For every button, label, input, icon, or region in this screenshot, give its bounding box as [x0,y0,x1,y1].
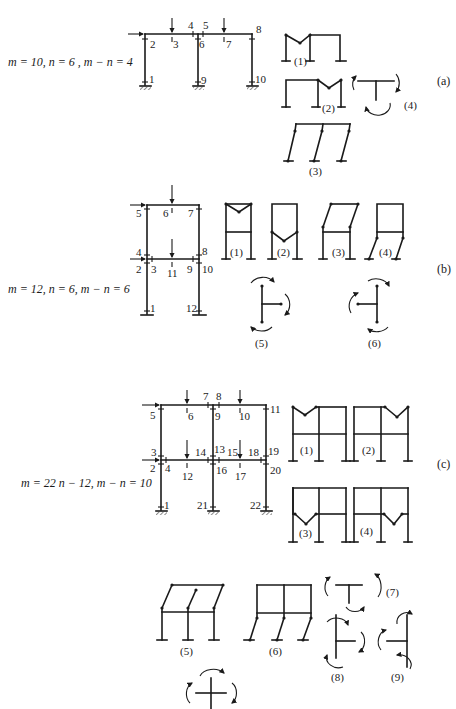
svg-text:1: 1 [164,499,170,511]
svg-text:7: 7 [188,207,194,219]
svg-text:3: 3 [173,38,179,50]
svg-text:6: 6 [199,38,205,50]
svg-text:5: 5 [150,409,156,421]
svg-text:22: 22 [250,499,261,511]
svg-text:2: 2 [150,38,156,50]
mechanism-b1: (1) [222,202,255,259]
part-c: m = 22 n − 12, m − n = 10 (c) [21,390,450,709]
svg-text:5: 5 [203,19,209,31]
svg-text:(1): (1) [300,444,313,457]
svg-text:(4): (4) [404,99,417,112]
mechanism-c5: (5) [157,583,225,658]
svg-text:15: 15 [227,446,239,458]
svg-text:4: 4 [188,19,194,31]
svg-text:(1): (1) [294,55,307,68]
svg-text:9: 9 [201,74,207,86]
mechanism-b5: (5) [251,277,290,350]
svg-text:12: 12 [182,470,193,482]
svg-text:8: 8 [216,390,222,402]
svg-text:21: 21 [197,499,208,511]
node-labels-a: 1 2 3 4 5 6 7 8 9 10 [149,19,267,86]
svg-text:11: 11 [167,267,178,279]
svg-text:10: 10 [239,410,251,422]
tag-b: (b) [437,262,451,276]
mechanism-a4: (4) [353,74,418,115]
mechanism-a2: (2) [282,78,345,115]
svg-text:(1): (1) [230,246,243,259]
mechanism-c3: (3) [289,488,350,542]
tag-c: (c) [437,457,450,471]
svg-text:7: 7 [203,390,209,402]
svg-text:(2): (2) [277,246,290,259]
svg-text:(2): (2) [322,102,335,115]
mechanism-b6: (6) [349,279,389,350]
part-a: m = 10, n = 6 , m − n = 4 (a) [8,18,450,178]
svg-text:(3): (3) [332,246,345,259]
svg-text:(6): (6) [368,337,381,350]
svg-text:11: 11 [270,403,281,415]
svg-text:10: 10 [255,73,267,85]
svg-text:8: 8 [202,245,208,257]
svg-text:6: 6 [163,207,169,219]
svg-text:3: 3 [151,446,157,458]
equation-c: m = 22 n − 12, m − n = 10 [21,476,152,490]
equation-b: m = 12, n = 6, m − n = 6 [8,282,130,296]
svg-text:9: 9 [215,410,221,422]
mechanism-b3: (3) [319,202,360,259]
svg-text:20: 20 [270,464,282,476]
mechanism-c1: (1) [289,405,350,461]
equation-a: m = 10, n = 6 , m − n = 4 [8,55,133,69]
svg-text:8: 8 [256,23,262,35]
svg-text:1: 1 [149,73,155,85]
mechanism-c4: (4) [350,488,412,542]
mechanism-a3: (3) [284,124,351,178]
mechanism-a1: (1) [282,33,346,68]
svg-text:3: 3 [151,263,157,275]
svg-text:19: 19 [268,445,280,457]
svg-text:1: 1 [150,302,156,314]
svg-text:13: 13 [214,443,226,455]
svg-text:12: 12 [186,302,197,314]
svg-text:18: 18 [248,446,260,458]
mechanism-b4: (4) [365,204,405,261]
svg-text:(8): (8) [331,671,344,684]
svg-text:4: 4 [136,246,142,258]
node-labels-c: 1 2 3 4 5 6 7 8 9 10 11 12 13 14 15 16 1… [150,390,282,511]
mechanism-c6: (6) [244,585,313,658]
svg-text:10: 10 [202,263,214,275]
mechanism-c8: (8) [327,615,365,684]
svg-text:14: 14 [195,446,207,458]
svg-text:17: 17 [235,470,247,482]
tag-a: (a) [437,74,450,88]
mechanism-b2: (2) [268,204,302,259]
mechanism-c7: (7) [325,574,399,612]
svg-text:16: 16 [216,464,228,476]
svg-text:(4): (4) [379,246,392,259]
mechanism-c9: (9) [378,613,412,684]
svg-text:(3): (3) [299,527,312,540]
svg-text:5: 5 [136,207,142,219]
svg-text:(5): (5) [180,645,193,658]
svg-text:9: 9 [187,263,193,275]
svg-text:7: 7 [226,38,232,50]
mechanism-c-cross-joint [186,669,236,709]
svg-text:(2): (2) [362,444,375,457]
svg-text:(7): (7) [386,586,399,599]
svg-text:6: 6 [188,410,194,422]
figure-canvas: m = 10, n = 6 , m − n = 4 (a) [0,0,456,709]
svg-text:(9): (9) [391,671,404,684]
svg-text:(6): (6) [269,645,282,658]
svg-text:(4): (4) [360,525,373,538]
svg-text:4: 4 [165,462,171,474]
svg-text:2: 2 [150,462,156,474]
mechanism-c2: (2) [350,405,412,461]
svg-text:(3): (3) [309,165,322,178]
svg-text:(5): (5) [255,337,268,350]
svg-text:2: 2 [136,263,142,275]
part-b: m = 12, n = 6, m − n = 6 (b) [8,185,451,350]
